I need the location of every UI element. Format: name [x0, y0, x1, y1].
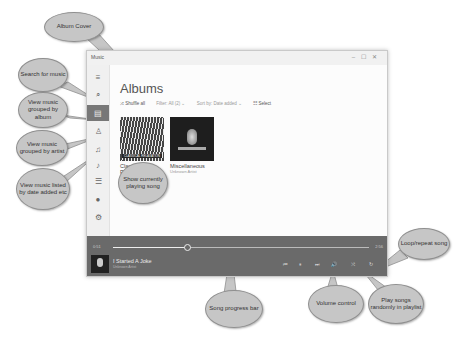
- albums-icon[interactable]: ▤: [87, 105, 109, 121]
- callout-by-date: View music listed by date added etc: [16, 168, 70, 210]
- playlists-icon[interactable]: ☰: [87, 173, 109, 189]
- repeat-icon[interactable]: ↻: [369, 261, 373, 267]
- progress-bar[interactable]: [113, 247, 369, 248]
- toolbar: ⤨ Shuffle all Filter: All (2) ⌄ Sort by:…: [120, 101, 281, 106]
- cover-label: [178, 147, 206, 150]
- select-button[interactable]: ☷ Select: [253, 101, 271, 106]
- album-tile[interactable]: Miscellaneous Unknown Artist: [170, 117, 214, 174]
- callout-shuffle: Play songs randomly in playlist: [368, 284, 424, 324]
- songs-icon[interactable]: ♫: [87, 141, 109, 157]
- artists-icon[interactable]: ♙: [87, 123, 109, 139]
- sort-dropdown[interactable]: Sort by: Date added ⌄: [197, 101, 242, 106]
- main-content: Albums ⤨ Shuffle all Filter: All (2) ⌄ S…: [110, 65, 387, 236]
- close-button[interactable]: ✕: [372, 54, 383, 60]
- album-cover[interactable]: [170, 117, 214, 161]
- now-playing-art[interactable]: [91, 255, 109, 273]
- settings-icon[interactable]: ⚙: [87, 209, 109, 225]
- progress-thumb[interactable]: [184, 244, 191, 251]
- now-playing-icon[interactable]: ♪: [87, 157, 109, 173]
- page-title: Albums: [120, 81, 163, 96]
- progress-fill: [113, 247, 187, 248]
- search-icon[interactable]: ⌕: [87, 87, 109, 103]
- callout-by-artist: View music grouped by artist: [16, 130, 68, 166]
- song-artist: Unknown Artist: [113, 265, 136, 269]
- app-title: Music: [91, 54, 104, 60]
- next-icon[interactable]: ⏭: [315, 261, 320, 268]
- callout-progress: Song progress bar: [205, 290, 263, 328]
- shuffle-icon[interactable]: ⤨: [351, 261, 355, 268]
- player-bar: 0:51 2:56 I Started A Joke Unknown Artis…: [87, 236, 387, 276]
- cover-caption: CLASSICAL RELAXATION: [122, 154, 162, 158]
- maximize-button[interactable]: ☐: [361, 54, 372, 60]
- microphone-icon: [97, 258, 103, 267]
- album-cover[interactable]: CLASSICAL RELAXATION: [120, 117, 164, 161]
- account-icon[interactable]: ●: [87, 191, 109, 207]
- callout-volume: Volume control: [308, 285, 364, 323]
- previous-icon[interactable]: ⏮: [283, 261, 288, 268]
- callout-album-cover: Album Cover: [44, 12, 104, 42]
- elapsed-time: 0:51: [93, 244, 101, 249]
- callout-now-playing: Show currently playing song: [118, 162, 168, 204]
- minimize-button[interactable]: –: [352, 54, 361, 60]
- album-artist: Unknown Artist: [170, 169, 214, 174]
- filter-dropdown[interactable]: Filter: All (2) ⌄: [156, 101, 185, 106]
- callout-search: Search for music: [18, 58, 68, 92]
- volume-icon[interactable]: 🔊: [331, 261, 337, 267]
- callout-repeat: Loop/repeat song: [398, 228, 450, 260]
- menu-icon[interactable]: ≡: [87, 69, 109, 85]
- duration-time: 2:56: [375, 244, 383, 249]
- sidebar: ≡ ⌕ ▤ ♙ ♫ ♪ ☰ ● ⚙: [87, 65, 110, 236]
- song-title[interactable]: I Started A Joke: [113, 258, 152, 264]
- title-bar: Music –☐✕: [87, 51, 387, 65]
- window-controls[interactable]: –☐✕: [352, 53, 383, 60]
- callout-by-album: View music grouped by album: [18, 92, 68, 128]
- microphone-icon: [187, 129, 197, 145]
- shuffle-all-button[interactable]: ⤨ Shuffle all: [120, 101, 145, 106]
- pause-icon[interactable]: ⏸: [299, 261, 302, 268]
